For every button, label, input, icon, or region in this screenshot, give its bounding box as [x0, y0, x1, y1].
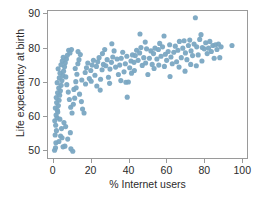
data-point: [69, 110, 74, 115]
data-point: [53, 123, 58, 128]
data-point: [184, 57, 189, 62]
data-point: [174, 59, 179, 64]
data-point: [188, 62, 193, 67]
x-tick-mark: [91, 159, 92, 163]
y-tick-label: 80: [8, 42, 40, 54]
data-point: [83, 81, 88, 86]
data-point: [160, 44, 165, 49]
data-point: [79, 99, 84, 104]
data-point: [117, 62, 122, 67]
data-point: [151, 51, 156, 56]
data-point: [187, 37, 192, 42]
data-point: [68, 130, 73, 135]
data-point: [120, 50, 125, 55]
data-point: [64, 82, 69, 87]
data-point: [176, 65, 181, 70]
data-point: [175, 48, 180, 53]
scatter-plot-figure: Life expectancy at birth 020406080100 50…: [0, 0, 259, 197]
data-point: [124, 54, 129, 59]
y-tick-label: 70: [8, 76, 40, 88]
data-point: [74, 72, 79, 77]
x-tick-label: 60: [151, 164, 181, 176]
data-point: [190, 53, 195, 58]
data-point: [67, 50, 72, 55]
y-tick-label: 60: [8, 110, 40, 122]
y-tick-label: 50: [8, 144, 40, 156]
data-point: [180, 46, 185, 51]
data-point: [106, 75, 111, 80]
x-tick-label: 0: [38, 164, 68, 176]
x-tick-label: 80: [189, 164, 219, 176]
data-point: [212, 56, 217, 61]
data-point: [96, 55, 101, 60]
data-point: [188, 48, 193, 53]
data-point: [196, 52, 201, 57]
data-point: [162, 64, 167, 69]
data-point: [75, 49, 80, 54]
data-point: [145, 72, 150, 77]
data-point: [88, 68, 93, 73]
data-point: [112, 48, 117, 53]
data-point: [92, 73, 97, 78]
data-point: [105, 57, 110, 62]
data-point: [164, 58, 169, 63]
data-point: [179, 55, 184, 60]
data-point: [151, 66, 156, 71]
data-point: [143, 60, 148, 65]
data-point: [186, 43, 191, 48]
data-point: [141, 55, 146, 60]
x-axis-label: % Internet users: [47, 178, 248, 190]
data-point: [219, 44, 224, 49]
data-point: [109, 60, 114, 65]
data-point: [194, 44, 199, 49]
data-point: [74, 85, 79, 90]
data-point: [156, 62, 161, 67]
data-point: [67, 97, 72, 102]
data-point: [198, 32, 203, 37]
data-point: [121, 69, 126, 74]
data-point: [118, 78, 123, 83]
data-point: [107, 67, 112, 72]
data-point: [89, 79, 94, 84]
y-tick-mark: [43, 116, 47, 117]
data-point: [83, 70, 88, 75]
data-point: [161, 33, 166, 38]
data-point: [71, 102, 76, 107]
x-tick-mark: [53, 159, 54, 163]
data-point: [136, 58, 141, 63]
y-tick-mark: [43, 48, 47, 49]
data-point: [53, 145, 58, 150]
data-point: [182, 69, 187, 74]
data-point: [65, 137, 70, 142]
data-point: [68, 146, 73, 151]
data-point: [177, 39, 182, 44]
data-point: [72, 96, 77, 101]
x-tick-mark: [166, 159, 167, 163]
data-point: [54, 128, 59, 133]
data-point: [107, 81, 112, 86]
data-point: [202, 46, 207, 51]
data-point: [94, 83, 99, 88]
data-point: [137, 31, 142, 36]
data-point: [143, 40, 148, 45]
x-tick-mark: [242, 159, 243, 163]
data-point: [79, 77, 84, 82]
y-tick-mark: [43, 150, 47, 151]
data-point: [199, 58, 204, 63]
data-point: [55, 108, 60, 113]
x-tick-label: 100: [227, 164, 257, 176]
data-point: [77, 92, 82, 97]
data-point: [133, 53, 138, 58]
data-point: [137, 50, 142, 55]
data-point: [123, 61, 128, 66]
data-point: [168, 54, 173, 59]
data-point: [167, 42, 172, 47]
data-point: [73, 79, 78, 84]
data-point: [132, 68, 137, 73]
data-point: [102, 47, 107, 52]
data-point: [138, 45, 143, 50]
data-point: [98, 88, 103, 93]
y-tick-label: 90: [8, 7, 40, 19]
data-point: [81, 110, 86, 115]
data-point: [193, 15, 198, 20]
